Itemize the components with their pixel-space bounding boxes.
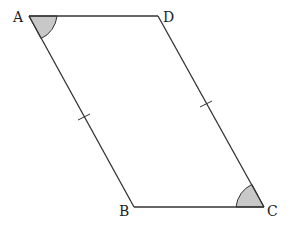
angle-c-marker — [236, 184, 264, 207]
vertex-label-a: A — [12, 9, 24, 25]
parallelogram-diagram: A D B C — [0, 0, 292, 227]
side-ba — [29, 16, 134, 207]
angle-a-marker — [29, 16, 57, 39]
vertex-label-c: C — [267, 203, 278, 219]
vertex-label-b: B — [119, 203, 129, 219]
side-dc — [158, 16, 264, 207]
vertex-label-d: D — [163, 9, 174, 25]
